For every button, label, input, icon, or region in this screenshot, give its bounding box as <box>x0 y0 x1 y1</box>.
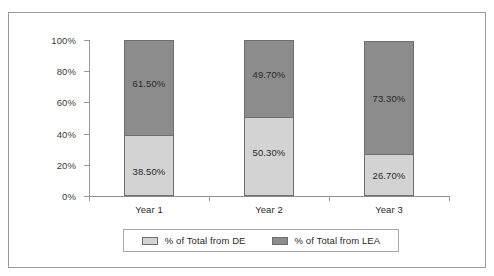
bar-year-3[interactable]: 73.30% 26.70% <box>364 41 414 196</box>
x-axis-category-label: Year 3 <box>375 204 403 215</box>
bar-segment-value-label: 61.50% <box>133 78 166 89</box>
y-axis-tick: 60% <box>84 102 89 103</box>
bar-segment-value-label: 73.30% <box>373 93 406 104</box>
legend-item-lea[interactable]: % of Total from LEA <box>272 235 381 246</box>
y-axis-tick: 80% <box>84 71 89 72</box>
y-axis-tick: 40% <box>84 134 89 135</box>
bar-year-1[interactable]: 61.50% 38.50% <box>124 40 174 196</box>
y-axis-tick-label: 80% <box>57 66 76 77</box>
chart-legend: % of Total from DE % of Total from LEA <box>123 229 399 252</box>
legend-item-de[interactable]: % of Total from DE <box>142 235 246 246</box>
bar-segment-de[interactable]: 38.50% <box>124 135 174 196</box>
bar-segment-lea[interactable]: 61.50% <box>124 40 174 136</box>
y-axis-line <box>89 40 90 196</box>
legend-label-de: % of Total from DE <box>165 235 246 246</box>
plot-area: 100% 80% 60% 40% 20% 0% 61.50% 38.50% <box>89 40 450 196</box>
y-axis-tick: 100% <box>84 40 89 41</box>
y-axis-tick: 20% <box>84 165 89 166</box>
bar-segment-value-label: 50.30% <box>253 147 286 158</box>
bar-segment-de[interactable]: 50.30% <box>244 117 294 196</box>
x-axis-tick <box>209 196 210 201</box>
bar-segment-lea[interactable]: 49.70% <box>244 40 294 118</box>
x-axis-tick <box>89 196 90 201</box>
y-axis-tick-label: 0% <box>62 191 76 202</box>
x-axis-tick <box>329 196 330 201</box>
bar-year-2[interactable]: 49.70% 50.30% <box>244 40 294 196</box>
bar-segment-lea[interactable]: 73.30% <box>364 41 414 155</box>
bar-segment-de[interactable]: 26.70% <box>364 154 414 196</box>
x-axis-tick <box>449 196 450 201</box>
y-axis-tick-label: 20% <box>57 159 76 170</box>
x-axis-line <box>89 196 450 197</box>
y-axis-tick-label: 40% <box>57 128 76 139</box>
legend-swatch-de-icon <box>142 237 158 245</box>
bar-segment-value-label: 26.70% <box>373 170 406 181</box>
x-axis-category-label: Year 2 <box>255 204 283 215</box>
y-axis-tick-label: 100% <box>51 35 76 46</box>
scan-artifact <box>79 13 199 19</box>
bar-segment-value-label: 38.50% <box>133 166 166 177</box>
x-axis-category-label: Year 1 <box>135 204 163 215</box>
chart-frame: 100% 80% 60% 40% 20% 0% 61.50% 38.50% <box>8 12 486 268</box>
y-axis-tick-label: 60% <box>57 97 76 108</box>
legend-swatch-lea-icon <box>272 237 288 245</box>
bar-segment-value-label: 49.70% <box>253 69 286 80</box>
legend-label-lea: % of Total from LEA <box>295 235 381 246</box>
